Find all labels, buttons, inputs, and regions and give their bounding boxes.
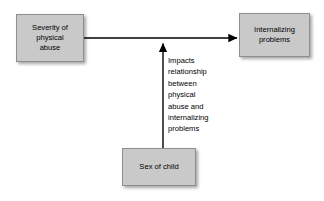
moderator-annotation-text: Impacts relationship between physical ab… xyxy=(168,55,230,135)
node-internalizing-label: Internalizing problems xyxy=(254,25,295,45)
node-severity-of-physical-abuse: Severity of physical abuse xyxy=(16,14,84,62)
node-internalizing-problems: Internalizing problems xyxy=(239,13,310,57)
moderation-diagram: Severity of physical abuse Internalizing… xyxy=(0,0,324,201)
node-sex-label: Sex of child xyxy=(139,162,178,172)
node-severity-label: Severity of physical abuse xyxy=(32,23,68,53)
node-sex-of-child: Sex of child xyxy=(122,148,196,186)
